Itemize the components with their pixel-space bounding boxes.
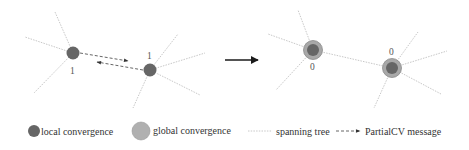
legend-label-message: PartialCV message [365,126,442,137]
global-convergence-icon [132,122,150,140]
legend-item-message: PartialCV message [336,126,442,137]
node-local-b [144,64,157,77]
legend-label-global: global convergence [153,125,231,136]
convergence-diagram: 1 1 0 0 [0,0,469,150]
node-global-a [304,41,323,60]
legend-label-local: local convergence [41,126,114,137]
message-b-to-a [97,62,143,70]
legend-item-local: local convergence [28,125,114,137]
before-graph: 1 1 [25,12,205,108]
node-global-b [383,59,402,78]
message-a-to-b [80,53,128,61]
spanning-tree-edges-before [25,12,205,108]
legend-item-tree: spanning tree [248,126,330,137]
legend-item-global: global convergence [132,122,231,140]
legend-label-tree: spanning tree [276,126,330,137]
local-convergence-icon [28,125,40,137]
legend: local convergence global convergence spa… [28,122,442,140]
node-a-count-after: 0 [310,62,315,72]
after-graph: 0 0 [268,10,447,108]
node-b-count-before: 1 [147,51,152,61]
node-local-a [67,47,80,60]
node-b-count-after: 0 [389,47,394,57]
partialcv-messages [80,53,143,70]
node-a-count-before: 1 [70,66,75,76]
spanning-tree-edges-after [268,10,447,108]
